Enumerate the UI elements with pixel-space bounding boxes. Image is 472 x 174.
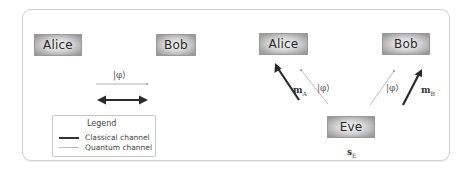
- node-label: Bob: [164, 38, 188, 52]
- classical-message-alice-label: mA: [293, 85, 307, 97]
- node-label: Eve: [340, 120, 363, 134]
- quantum-line-icon: [59, 147, 79, 148]
- eve-state-label: sE: [347, 147, 356, 159]
- node-label: Alice: [43, 38, 73, 52]
- legend: Legend Classical channel Quantum channel: [52, 115, 156, 157]
- classical-message-bob-label: mB: [421, 85, 435, 97]
- legend-label: Quantum channel: [85, 143, 152, 152]
- quantum-state-label-left: |φ⟩: [113, 70, 126, 80]
- node-bob-right: Bob: [382, 33, 430, 55]
- node-label: Bob: [394, 37, 418, 51]
- legend-item-quantum: Quantum channel: [59, 143, 152, 152]
- legend-item-classical: Classical channel: [59, 133, 150, 142]
- quantum-state-label-bob: |φ⟩: [386, 83, 399, 93]
- legend-label: Classical channel: [85, 133, 150, 142]
- node-eve: Eve: [327, 116, 375, 138]
- quantum-state-label-alice: |φ⟩: [317, 83, 330, 93]
- classical-line-icon: [59, 137, 79, 139]
- node-alice-right: Alice: [259, 33, 308, 55]
- node-bob-left: Bob: [156, 34, 196, 56]
- legend-title: Legend: [87, 119, 116, 128]
- node-label: Alice: [269, 37, 299, 51]
- node-alice-left: Alice: [34, 34, 82, 56]
